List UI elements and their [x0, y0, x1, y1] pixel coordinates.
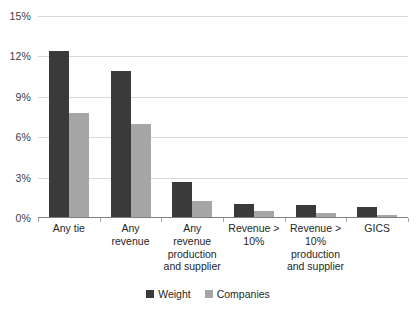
category-label: Anyrevenue — [100, 222, 162, 284]
legend-label: Weight — [158, 288, 191, 300]
category-label-line: 10% — [286, 235, 346, 248]
category-label: GICS — [346, 222, 408, 284]
bar-companies — [192, 201, 212, 219]
bar-weight — [296, 205, 316, 218]
category-label: Revenue >10%productionand supplier — [285, 222, 347, 284]
category-label-line: and supplier — [286, 260, 346, 273]
plot-area — [38, 16, 408, 218]
category-label-line: revenue — [162, 235, 222, 248]
y-axis-tick-label: 9% — [15, 91, 31, 103]
legend-item[interactable]: Companies — [205, 288, 270, 300]
y-axis-labels: 0%3%6%9%12%15% — [0, 0, 36, 218]
category-label-line: Any — [101, 222, 161, 235]
x-axis-category-labels: Any tieAnyrevenueAnyrevenueproductionand… — [38, 222, 408, 284]
y-axis-tick-label: 12% — [9, 50, 31, 62]
bar-group — [285, 16, 347, 218]
legend-item[interactable]: Weight — [146, 288, 191, 300]
category-label-line: production — [286, 248, 346, 261]
category-label-line: Any tie — [39, 222, 99, 235]
bar-weight — [111, 71, 131, 218]
legend-swatch-icon — [146, 290, 154, 298]
category-label-line: revenue — [101, 235, 161, 248]
bar-weight — [172, 182, 192, 218]
bar-group — [161, 16, 223, 218]
category-label-line: GICS — [347, 222, 407, 235]
legend-label: Companies — [217, 288, 270, 300]
bar-groups — [38, 16, 408, 218]
bar-group — [346, 16, 408, 218]
bar-weight — [234, 204, 254, 218]
y-axis-tick-label: 15% — [9, 10, 31, 22]
category-label-line: and supplier — [162, 260, 222, 273]
legend: WeightCompanies — [0, 288, 416, 300]
category-label-line: Revenue > — [224, 222, 284, 235]
category-label-line: Any — [162, 222, 222, 235]
category-label: Anyrevenueproductionand supplier — [161, 222, 223, 284]
legend-swatch-icon — [205, 290, 213, 298]
bar-group — [223, 16, 285, 218]
x-axis-tick — [408, 218, 409, 222]
category-label: Revenue >10% — [223, 222, 285, 284]
y-axis-tick-label: 6% — [15, 131, 31, 143]
y-axis-tick-label: 0% — [15, 212, 31, 224]
category-label-line: 10% — [224, 235, 284, 248]
y-axis-tick-label: 3% — [15, 172, 31, 184]
bar-group — [38, 16, 100, 218]
category-label: Any tie — [38, 222, 100, 284]
category-label-line: production — [162, 248, 222, 261]
bar-companies — [131, 124, 151, 218]
bar-group — [100, 16, 162, 218]
bar-weight — [49, 51, 69, 218]
bar-chart: 0%3%6%9%12%15% Any tieAnyrevenueAnyreven… — [0, 0, 416, 315]
category-label-line: Revenue > — [286, 222, 346, 235]
bar-companies — [69, 113, 89, 218]
